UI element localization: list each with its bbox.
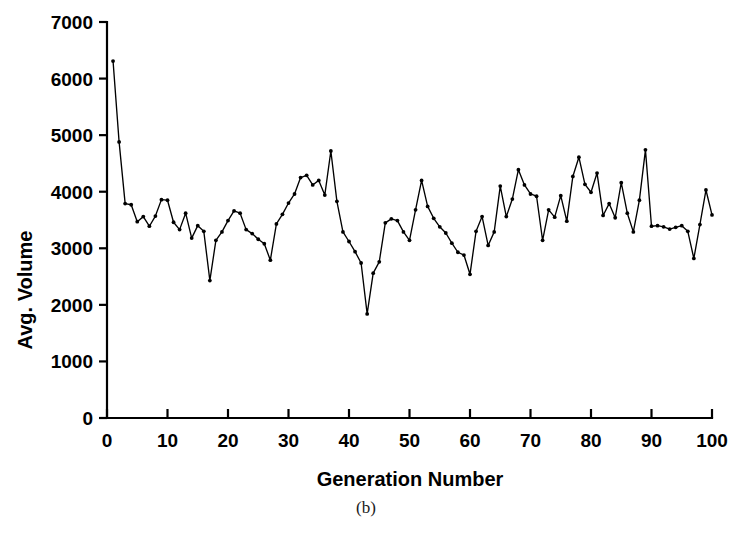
data-point-marker xyxy=(293,192,297,196)
data-point-marker xyxy=(275,222,279,226)
data-point-marker xyxy=(698,223,702,227)
data-point-marker xyxy=(480,215,484,219)
data-point-marker xyxy=(371,271,375,275)
x-tick-label: 30 xyxy=(278,430,299,451)
data-point-marker xyxy=(238,211,242,215)
x-tick-label: 10 xyxy=(157,430,178,451)
data-point-marker xyxy=(468,272,472,276)
data-point-marker xyxy=(383,221,387,225)
x-axis-tick-labels: 0102030405060708090100 xyxy=(102,430,728,451)
data-point-marker xyxy=(117,140,121,144)
data-point-marker xyxy=(686,229,690,233)
data-point-marker xyxy=(565,219,569,223)
data-point-marker xyxy=(607,202,611,206)
data-point-marker xyxy=(668,227,672,231)
data-point-marker xyxy=(631,230,635,234)
data-point-marker xyxy=(456,250,460,254)
x-tick-label: 100 xyxy=(696,430,728,451)
y-tick-label: 0 xyxy=(82,408,93,429)
x-tick-label: 0 xyxy=(102,430,113,451)
data-point-marker xyxy=(710,213,714,217)
data-point-marker xyxy=(377,260,381,264)
data-point-marker xyxy=(644,148,648,152)
data-point-marker xyxy=(577,155,581,159)
data-point-marker xyxy=(359,261,363,265)
data-point-marker xyxy=(589,190,593,194)
x-tick-label: 90 xyxy=(641,430,662,451)
data-point-marker xyxy=(262,242,266,246)
y-tick-label: 6000 xyxy=(51,69,93,90)
data-point-marker xyxy=(196,224,200,228)
data-point-marker xyxy=(504,215,508,219)
x-tick-label: 40 xyxy=(338,430,359,451)
data-point-marker xyxy=(619,181,623,185)
data-point-marker xyxy=(492,230,496,234)
data-point-marker xyxy=(438,225,442,229)
y-axis-tick-labels: 01000200030004000500060007000 xyxy=(51,12,93,429)
data-point-marker xyxy=(571,175,575,179)
data-point-marker xyxy=(208,279,212,283)
y-axis-title: Avg. Volume xyxy=(14,231,36,350)
data-point-marker xyxy=(486,244,490,248)
avg-volume-series-line xyxy=(113,61,712,314)
data-point-marker xyxy=(559,194,563,198)
figure-caption: (b) xyxy=(0,498,732,518)
data-point-marker xyxy=(662,225,666,229)
x-axis-ticks xyxy=(107,409,712,418)
data-point-marker xyxy=(498,184,502,188)
data-point-marker xyxy=(414,208,418,212)
data-point-marker xyxy=(341,230,345,234)
data-point-marker xyxy=(595,171,599,175)
data-point-marker xyxy=(650,224,654,228)
y-tick-label: 2000 xyxy=(51,295,93,316)
y-tick-label: 7000 xyxy=(51,12,93,33)
x-axis-group: 0102030405060708090100 Generation Number xyxy=(102,409,728,490)
data-point-marker xyxy=(226,219,230,223)
data-point-marker xyxy=(541,238,545,242)
x-axis-title: Generation Number xyxy=(317,468,504,490)
data-point-marker xyxy=(299,176,303,180)
data-point-marker xyxy=(420,179,424,183)
data-point-marker xyxy=(323,193,327,197)
data-point-marker xyxy=(408,238,412,242)
data-point-marker xyxy=(202,229,206,233)
data-point-marker xyxy=(510,197,514,201)
data-point-marker xyxy=(256,237,260,241)
avg-volume-line-chart: 01000200030004000500060007000 Avg. Volum… xyxy=(0,0,732,495)
data-point-marker xyxy=(402,230,406,234)
y-axis-group: 01000200030004000500060007000 Avg. Volum… xyxy=(14,12,107,429)
data-point-marker xyxy=(281,212,285,216)
data-point-marker xyxy=(166,198,170,202)
x-tick-label: 70 xyxy=(520,430,541,451)
data-point-marker xyxy=(147,224,151,228)
data-point-marker xyxy=(244,228,248,232)
data-point-marker xyxy=(601,214,605,218)
data-point-marker xyxy=(625,211,629,215)
data-point-marker xyxy=(335,199,339,203)
data-point-marker xyxy=(287,201,291,205)
data-point-marker xyxy=(444,231,448,235)
x-tick-label: 60 xyxy=(459,430,480,451)
data-point-marker xyxy=(656,224,660,228)
data-point-marker xyxy=(613,216,617,220)
data-point-marker xyxy=(178,228,182,232)
data-point-marker xyxy=(547,208,551,212)
data-point-marker xyxy=(329,149,333,153)
data-point-marker xyxy=(135,220,139,224)
data-point-marker xyxy=(305,173,309,177)
data-point-marker xyxy=(523,183,527,187)
x-tick-label: 50 xyxy=(399,430,420,451)
data-point-marker xyxy=(389,217,393,221)
data-point-marker xyxy=(123,202,127,206)
data-point-marker xyxy=(638,198,642,202)
data-point-marker xyxy=(190,236,194,240)
y-tick-label: 3000 xyxy=(51,238,93,259)
data-point-marker xyxy=(704,188,708,192)
data-point-marker xyxy=(220,230,224,234)
data-point-marker xyxy=(111,59,115,63)
avg-volume-series-markers xyxy=(111,59,714,316)
data-point-marker xyxy=(365,312,369,316)
data-series-group xyxy=(111,59,714,316)
y-axis-ticks xyxy=(99,22,107,418)
data-point-marker xyxy=(432,216,436,220)
